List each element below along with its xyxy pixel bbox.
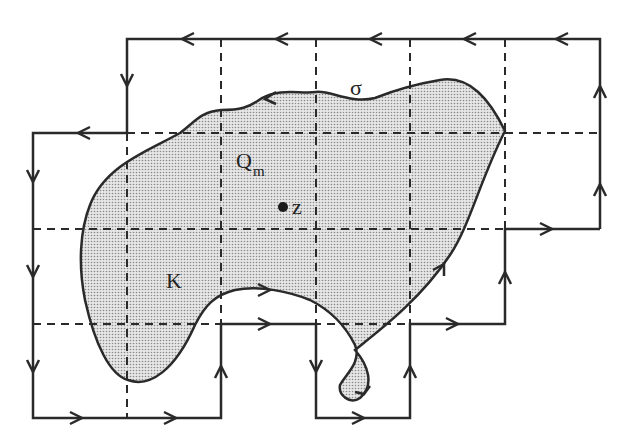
label-k: K [166,268,182,293]
diagram-canvas: σ Q m z K [0,0,626,444]
sigma-curve [81,79,505,400]
label-sigma: σ [350,75,362,100]
label-q: Q [236,148,252,173]
point-z-dot [278,202,288,212]
label-z: z [292,194,302,219]
label-q-subscript: m [253,163,265,179]
region-k [81,79,505,400]
